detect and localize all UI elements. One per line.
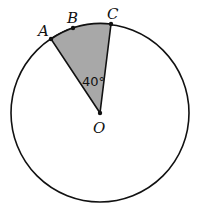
point-a (49, 37, 53, 41)
label-b: B (66, 9, 78, 27)
label-o: O (93, 119, 105, 137)
circle-diagram: A B C O 40° (0, 0, 197, 213)
angle-label: 40° (82, 74, 105, 89)
point-o (98, 111, 102, 115)
label-c: C (107, 5, 119, 23)
label-a: A (36, 22, 49, 40)
shaded-sector (51, 23, 111, 113)
